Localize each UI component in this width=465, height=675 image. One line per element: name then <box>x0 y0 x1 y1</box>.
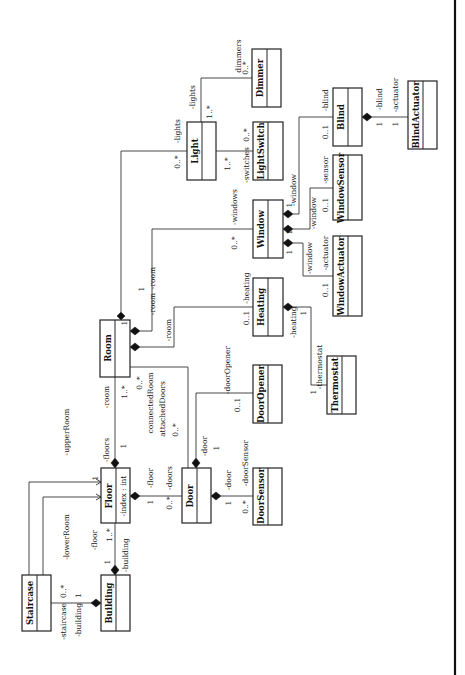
class-window[interactable]: Window <box>253 200 283 258</box>
composition-diamond-icon <box>211 492 221 500</box>
multiplicity-label: 0..* <box>165 496 174 510</box>
multiplicity-label: 0..* <box>173 155 182 169</box>
class-floor[interactable]: Floor -index : int <box>101 468 130 523</box>
class-name: Blind <box>336 104 346 130</box>
composition-diamond-icon <box>283 210 293 218</box>
multiplicity-label: 0..1 <box>321 125 330 139</box>
multiplicity-label: 0..1 <box>242 311 251 325</box>
role-label: -lowerRoom <box>62 514 71 560</box>
multiplicity-label: 1 <box>285 250 294 255</box>
class-name: Staircase <box>25 580 35 625</box>
multiplicity-label: 0..1 <box>321 198 330 212</box>
class-name: Door <box>185 484 195 508</box>
composition-diamond-icon <box>130 343 140 351</box>
class-name: LightSwitch <box>256 122 266 179</box>
role-label: -heating <box>289 306 298 338</box>
multiplicity-label: 0..* <box>230 236 239 250</box>
class-windowactuator[interactable]: WindowActuator <box>333 236 362 317</box>
multiplicity-label: 1 <box>212 446 221 451</box>
class-name: Window <box>256 209 266 248</box>
class-light[interactable]: Light <box>187 122 216 180</box>
multiplicity-label: 0..* <box>242 128 251 142</box>
role-label: -door <box>200 436 209 456</box>
class-door[interactable]: Door <box>182 468 211 523</box>
composition-diamond-icon <box>111 565 119 575</box>
role-label: -lights <box>188 85 197 109</box>
multiplicity-label: 1 <box>299 311 308 316</box>
composition-diamond-icon <box>192 458 200 468</box>
multiplicity-label: 1 <box>391 122 400 127</box>
composition-diamond-icon <box>117 312 125 320</box>
class-staircase[interactable]: Staircase <box>22 575 51 631</box>
role-label: -room <box>164 319 173 341</box>
role-label: -actuator <box>391 77 400 112</box>
multiplicity-label: 0..1 <box>321 283 330 297</box>
class-lightswitch[interactable]: LightSwitch <box>253 122 283 180</box>
multiplicity-label: 1 <box>120 321 129 326</box>
multiplicity-label: 1 <box>146 500 155 505</box>
multiplicity-label: 0..* <box>171 423 180 437</box>
class-name: BlindActuator <box>411 81 421 149</box>
composition-diamond-icon <box>362 113 372 121</box>
class-doorsensor[interactable]: DoorSensor <box>253 468 282 525</box>
class-name: Room <box>103 334 113 361</box>
multiplicity-label: 0..* <box>135 376 144 390</box>
multiplicity-label: 1 <box>285 230 294 235</box>
class-name: Thermostat <box>330 357 340 412</box>
role-label: -floor <box>90 530 99 551</box>
class-dimmer[interactable]: Dimmer <box>252 49 281 107</box>
class-name: Dimmer <box>255 58 265 97</box>
class-attribute: -index : int <box>119 476 128 517</box>
class-name: DoorSensor <box>256 468 266 524</box>
role-label: -thermostat <box>315 345 324 389</box>
class-heating[interactable]: Heating <box>253 278 283 336</box>
multiplicity-label: 1..* <box>205 105 214 119</box>
class-blind[interactable]: Blind <box>333 88 362 146</box>
composition-diamond-icon <box>111 458 119 468</box>
class-room[interactable]: Room <box>100 320 130 377</box>
multiplicity-label: 1 <box>91 476 100 481</box>
role-label: -upperRoom <box>62 409 71 456</box>
role-label: -blind <box>375 88 384 110</box>
role-label: -windows <box>230 189 239 225</box>
role-label: -actuator <box>321 235 330 270</box>
multiplicity-label: 1 <box>103 560 112 565</box>
role-label: -window <box>289 173 298 205</box>
role-label: -window <box>305 241 314 273</box>
multiplicity-label: 0..* <box>59 584 68 598</box>
role-label: -room <box>148 267 157 289</box>
multiplicity-label: 1 <box>119 444 128 449</box>
composition-diamond-icon <box>283 239 293 247</box>
class-dooropener[interactable]: DoorOpener <box>253 364 282 423</box>
role-label: -building <box>121 538 130 572</box>
multiplicity-label: 1 <box>309 390 318 395</box>
role-label: -door <box>224 470 233 490</box>
class-windowsensor[interactable]: WindowSensor <box>333 152 362 224</box>
multiplicity-label: 0..1 <box>233 398 242 412</box>
role-label: -building <box>74 603 83 637</box>
multiplicity-label: 0..* <box>241 500 250 514</box>
multiplicity-label: 1..* <box>120 385 129 399</box>
role-label: -floor <box>146 468 155 489</box>
multiplicity-label: 1 <box>137 287 146 292</box>
class-name: WindowActuator <box>336 236 346 317</box>
multiplicity-label: 0..* <box>241 61 250 75</box>
class-name: DoorOpener <box>256 364 266 423</box>
class-name: Light <box>190 138 200 163</box>
class-building[interactable]: Building <box>101 575 130 631</box>
role-label: -room <box>148 293 157 315</box>
composition-diamond-icon <box>130 327 140 335</box>
role-label: -doors <box>165 466 174 490</box>
multiplicity-label: 1 <box>74 593 83 598</box>
role-label: -sensor <box>321 156 330 184</box>
role-label: -lights <box>173 119 182 143</box>
class-thermostat[interactable]: Thermostat <box>327 356 356 414</box>
role-label: connectedRoom <box>146 372 155 433</box>
class-blindactuator[interactable]: BlindActuator <box>408 81 437 149</box>
class-name: Floor <box>104 483 114 509</box>
role-label: -doorSensor <box>241 439 250 486</box>
class-name: Heating <box>256 288 266 326</box>
composition-diamond-icon <box>130 492 140 500</box>
role-label: attachedDoors <box>158 381 167 437</box>
multiplicity-label: 1..* <box>105 528 114 542</box>
